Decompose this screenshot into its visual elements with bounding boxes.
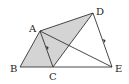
shaded-region bbox=[20, 13, 93, 67]
label-a: A bbox=[28, 23, 37, 34]
geometry-diagram: A B C D E bbox=[0, 0, 129, 84]
label-b: B bbox=[10, 63, 17, 74]
label-c: C bbox=[49, 71, 57, 82]
label-e: E bbox=[115, 63, 122, 74]
label-d: D bbox=[96, 6, 104, 17]
